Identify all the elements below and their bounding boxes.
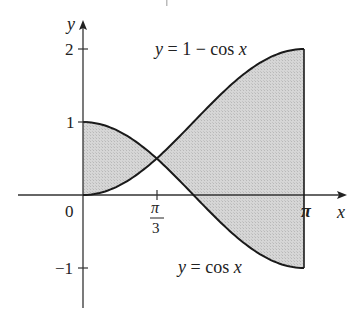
shaded-region bbox=[83, 49, 304, 268]
label-one-minus-cos-x: x bbox=[238, 39, 247, 59]
x-tick-label-0: 0 bbox=[65, 202, 74, 221]
label-cos-y: y bbox=[176, 257, 186, 277]
label-cos-x: x bbox=[233, 257, 242, 277]
label-one-minus-cos: y = 1 − cos x bbox=[153, 39, 247, 59]
y-axis-label: y bbox=[65, 14, 75, 34]
x-axis-label: x bbox=[336, 202, 345, 222]
area-between-curves-figure: 2 1 −1 0 π 3 π x y y = 1 − cos x y = cos… bbox=[0, 0, 353, 312]
y-tick-label-1: 1 bbox=[66, 113, 75, 132]
y-tick-label-neg1: −1 bbox=[55, 259, 73, 278]
label-cos: y = cos x bbox=[176, 257, 242, 277]
x-tick-label-pi3-den: 3 bbox=[152, 220, 160, 236]
label-one-minus-cos-mid: = 1 − cos bbox=[163, 39, 239, 59]
x-tick-label-pi3-num: π bbox=[151, 199, 160, 216]
label-cos-mid: = cos bbox=[186, 257, 234, 277]
x-tick-label-pi: π bbox=[301, 201, 312, 221]
y-tick-label-2: 2 bbox=[65, 40, 74, 59]
label-one-minus-cos-y: y bbox=[153, 39, 163, 59]
cropped-glyph-artifact bbox=[166, 0, 168, 6]
